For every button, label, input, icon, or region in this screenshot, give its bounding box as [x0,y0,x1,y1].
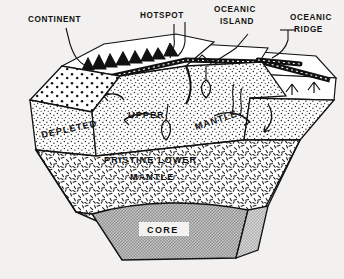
earth-cutaway-diagram: CONTINENT HOTSPOT OCEANIC ISLAND OCEANIC… [0,0,344,279]
label-core: CORE [147,225,179,235]
label-pristine-lower: PRISTINE LOWER [104,155,197,165]
label-lower-mantle: MANTLE [130,172,174,182]
label-upper: UPPER [128,110,165,120]
label-oceanic-ridge-line2: RIDGE [294,25,323,34]
label-oceanic-island-line2: ISLAND [220,17,254,26]
figure-canvas: CONTINENT HOTSPOT OCEANIC ISLAND OCEANIC… [0,0,344,279]
label-oceanic-island-line1: OCEANIC [214,5,256,14]
label-continent: CONTINENT [28,15,81,24]
label-hotspot: HOTSPOT [140,11,184,20]
label-oceanic-ridge-line1: OCEANIC [290,13,332,22]
